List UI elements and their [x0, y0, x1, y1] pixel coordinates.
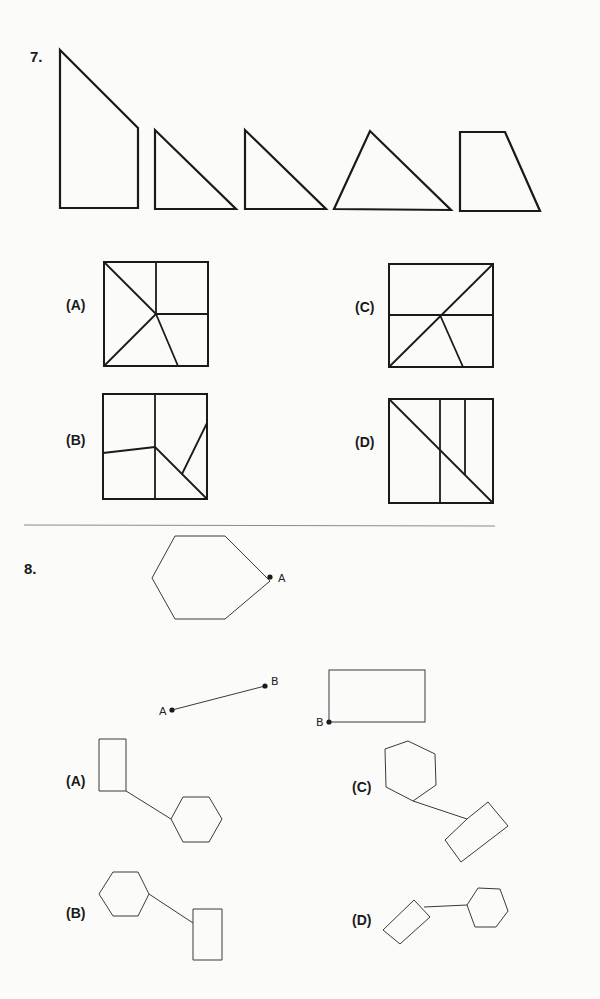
dissection-line — [104, 314, 156, 366]
piece-right-triangle-2 — [245, 130, 326, 209]
segment-ab — [172, 686, 265, 710]
question-7-option-d — [389, 399, 493, 503]
dissection-line — [155, 447, 207, 499]
rectangle-point-b-dot — [326, 719, 331, 724]
hexagon-shape — [152, 536, 270, 619]
option-rectangle — [445, 802, 508, 862]
piece-right-triangle-1 — [155, 130, 236, 209]
question-7-pieces — [60, 50, 540, 211]
rectangle-label-b: B — [316, 716, 324, 729]
piece-scalene-triangle — [334, 131, 451, 210]
segment-label-a: A — [159, 705, 167, 718]
point-a-dot — [267, 574, 272, 579]
option-connecting-segment — [424, 905, 467, 907]
option-rectangle — [193, 909, 222, 960]
piece-pentagon — [60, 50, 138, 208]
dissection-line — [440, 315, 463, 367]
question-7-option-b — [103, 394, 207, 499]
segment-point-a-dot — [169, 707, 174, 712]
option-hexagon — [171, 797, 222, 842]
option-rectangle — [383, 900, 430, 944]
question-8-option-d — [383, 888, 508, 944]
option-hexagon — [467, 888, 508, 927]
section-divider — [24, 525, 495, 526]
option-connecting-segment — [149, 894, 193, 923]
dissection-line — [156, 314, 178, 366]
option-connecting-segment — [126, 791, 171, 819]
question-8-given: AABB — [152, 536, 425, 729]
option-connecting-segment — [413, 801, 467, 819]
option-hexagon — [385, 741, 436, 801]
dissection-line — [389, 399, 493, 503]
question-7-option-c — [389, 264, 493, 367]
question-7-option-a — [104, 262, 208, 366]
dissection-line — [103, 447, 155, 453]
rectangle-shape — [329, 670, 425, 722]
question-8-option-a — [99, 739, 222, 842]
point-a-label: A — [278, 572, 286, 585]
dissection-line — [182, 423, 207, 474]
option-rectangle — [99, 739, 126, 791]
figure-canvas: AABB — [0, 0, 600, 999]
segment-label-b: B — [271, 675, 279, 688]
segment-point-b-dot — [262, 683, 267, 688]
question-8-option-c — [385, 741, 508, 862]
dissection-line — [104, 262, 156, 314]
question-8-option-b — [99, 872, 222, 960]
option-hexagon — [99, 872, 149, 916]
piece-trapezoid — [460, 132, 540, 211]
